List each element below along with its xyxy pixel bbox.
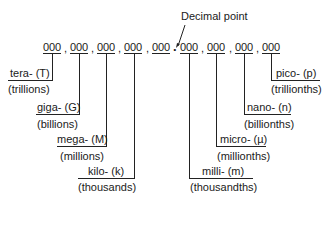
digit-group-7: 000 bbox=[207, 41, 225, 54]
comma: , bbox=[256, 42, 259, 54]
nano-meaning: (billionths) bbox=[244, 118, 294, 130]
nano-label: nano- (n) bbox=[247, 101, 292, 113]
digit-group-8: 000 bbox=[235, 41, 253, 54]
tera-underline bbox=[8, 80, 53, 81]
digit-group-3: 000 bbox=[97, 41, 115, 54]
comma: , bbox=[118, 42, 121, 54]
milli-connector bbox=[189, 54, 190, 179]
comma: , bbox=[146, 42, 149, 54]
pico-connector bbox=[271, 54, 272, 81]
comma: , bbox=[201, 42, 204, 54]
nano-connector bbox=[244, 54, 245, 115]
mega-meaning: (millions) bbox=[60, 150, 104, 162]
milli-meaning: (thousandths) bbox=[190, 181, 257, 193]
giga-underline bbox=[36, 114, 80, 115]
giga-label: giga- (G) bbox=[37, 101, 80, 113]
digit-group-2: 000 bbox=[70, 41, 88, 54]
kilo-underline bbox=[78, 178, 135, 179]
kilo-connector bbox=[134, 54, 135, 179]
milli-label: milli- (m) bbox=[202, 165, 244, 177]
kilo-label: kilo- (k) bbox=[88, 165, 124, 177]
pico-underline bbox=[271, 80, 320, 81]
decimal-point: . bbox=[173, 41, 177, 53]
mega-underline bbox=[57, 146, 107, 147]
pico-label: pico- (p) bbox=[276, 67, 316, 79]
micro-label: micro- (µ) bbox=[220, 133, 267, 145]
kilo-meaning: (thousands) bbox=[78, 181, 136, 193]
micro-connector bbox=[216, 54, 217, 147]
micro-meaning: (millionths) bbox=[217, 150, 270, 162]
digit-group-5: 000 bbox=[152, 41, 170, 54]
tera-label: tera- (T) bbox=[10, 67, 50, 79]
digit-group-9: 000 bbox=[262, 41, 280, 54]
giga-meaning: (billions) bbox=[37, 118, 78, 130]
micro-underline bbox=[216, 146, 266, 147]
digit-group-4: 000 bbox=[124, 41, 142, 54]
tera-meaning: (trillions) bbox=[8, 83, 50, 95]
milli-underline bbox=[189, 178, 253, 179]
comma: , bbox=[91, 42, 94, 54]
pico-meaning: (trillionths) bbox=[271, 83, 322, 95]
comma: , bbox=[64, 42, 67, 54]
nano-underline bbox=[244, 114, 291, 115]
digit-group-1: 000 bbox=[43, 41, 61, 54]
tera-connector bbox=[52, 54, 53, 81]
comma: , bbox=[229, 42, 232, 54]
mega-label: mega- (M) bbox=[57, 133, 108, 145]
digit-group-6: 000 bbox=[180, 41, 198, 54]
